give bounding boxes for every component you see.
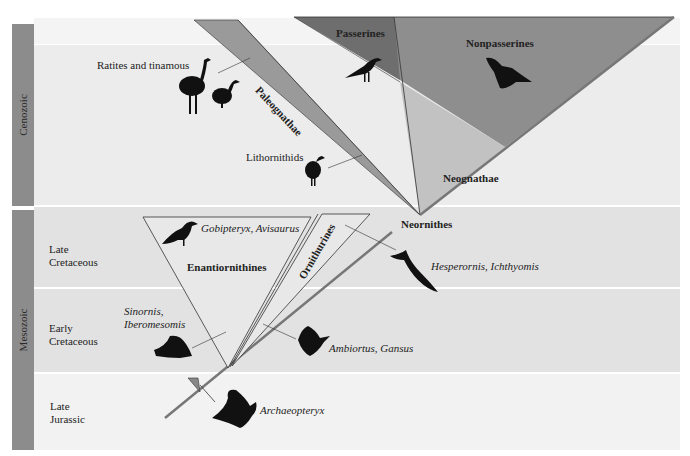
clade-label-enantiornithines: Enantiornithines: [187, 261, 266, 273]
taxon-label-lithornithids: Lithornithids: [246, 151, 303, 163]
archaeopteryx-wedge: [188, 378, 200, 392]
passerine-silhouette-icon: [345, 58, 382, 82]
ambiortus-silhouette-icon: [298, 326, 330, 356]
clade-label-neornithes: Neornithes: [401, 218, 452, 230]
taxon-label-line: Iberomesomis: [124, 318, 185, 331]
lithornithid-silhouette-icon: [305, 156, 325, 186]
taxon-label-ratites: Ratites and tinamous: [97, 59, 189, 71]
tinamou-silhouette-icon: [212, 80, 240, 108]
clade-label-passerines: Passerines: [336, 27, 385, 39]
archaeopteryx-silhouette-icon: [212, 390, 257, 428]
taxon-label-ambiortus: Ambiortus, Gansus: [329, 342, 413, 354]
taxon-label-hesperornis: Hesperornis, Ichthyomis: [431, 260, 539, 272]
taxon-label-archaeopteryx: Archaeopteryx: [260, 404, 324, 416]
clade-label-neognathae: Neognathae: [443, 172, 499, 184]
taxon-label-line: Sinornis,: [124, 305, 185, 318]
sinornis-silhouette-icon: [154, 336, 192, 358]
taxon-label-sinornis: Sinornis, Iberomesomis: [124, 305, 185, 331]
taxon-label-gobipteryx: Gobipteryx, Avisaurus: [201, 222, 299, 234]
clade-label-nonpasserines: Nonpasserines: [466, 37, 534, 49]
